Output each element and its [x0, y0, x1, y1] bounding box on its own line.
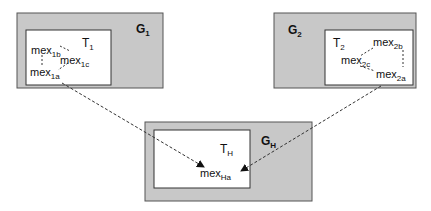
group-g2: G2 T2 mex2b mex2c mex2a [274, 13, 416, 88]
diagram-canvas: G1 T1 mex1b mex1c mex1a G2 T2 mex2b mex2… [0, 0, 431, 211]
tree-th-box [154, 130, 250, 188]
group-g1: G1 T1 mex1b mex1c mex1a [17, 13, 163, 88]
group-gh: GH TH mexHa [145, 122, 312, 201]
